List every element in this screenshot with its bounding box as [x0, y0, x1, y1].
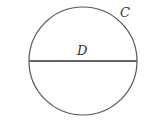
circle-label: C [120, 6, 130, 19]
diameter-label: D [77, 44, 87, 57]
